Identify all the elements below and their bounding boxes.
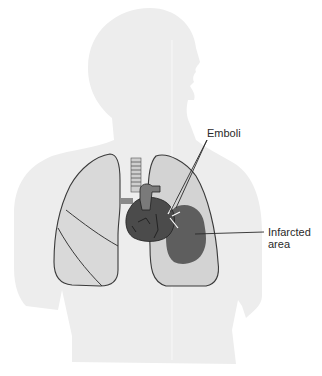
infarcted-area-label: Infarcted area <box>268 226 311 250</box>
infarcted-label-line2: area <box>268 238 311 250</box>
anatomy-illustration: Emboli Infarcted area <box>0 0 322 376</box>
emboli-label: Emboli <box>207 127 241 139</box>
infarcted-label-line1: Infarcted <box>268 226 311 238</box>
